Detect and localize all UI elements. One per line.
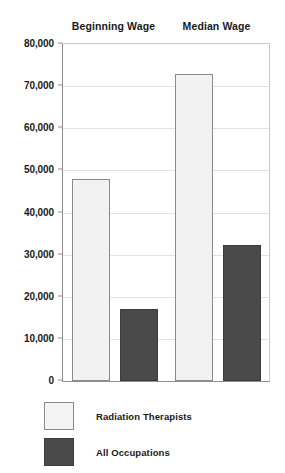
legend-item-radiation-therapists: Radiation Therapists bbox=[44, 401, 274, 431]
legend-item-all-occupations: All Occupations bbox=[44, 437, 274, 467]
legend-swatch-icon-radiation-therapists bbox=[44, 402, 74, 430]
y-axis-tick-label: 60,000 bbox=[24, 122, 54, 133]
y-axis-tick-label: 20,000 bbox=[24, 290, 54, 301]
plot-area bbox=[62, 43, 270, 382]
y-axis: 80,00070,00060,00050,00040,00030,00020,0… bbox=[0, 43, 62, 381]
chart-legend: Radiation Therapists All Occupations bbox=[44, 401, 274, 473]
bar-beginning-wage-all-occupations bbox=[120, 309, 158, 381]
chart-page: { "chart_data": { "type": "bar", "title"… bbox=[0, 0, 285, 473]
group-header-median-wage: Median Wage bbox=[165, 15, 268, 37]
y-axis-tick-label: 40,000 bbox=[24, 206, 54, 217]
y-axis-tick-label: 0 bbox=[49, 375, 54, 386]
bar-median-wage-radiation-therapists bbox=[175, 74, 213, 381]
y-axis-tick-label: 70,000 bbox=[24, 80, 54, 91]
group-header-beginning-wage: Beginning Wage bbox=[62, 15, 165, 37]
bar-group-container bbox=[63, 44, 269, 381]
legend-swatch-icon-all-occupations bbox=[44, 438, 74, 466]
y-axis-tick-label: 30,000 bbox=[24, 248, 54, 259]
y-axis-tick-label: 50,000 bbox=[24, 164, 54, 175]
bar-beginning-wage-radiation-therapists bbox=[72, 179, 110, 381]
y-axis-tick-label: 80,000 bbox=[24, 38, 54, 49]
legend-label-all-occupations: All Occupations bbox=[96, 447, 170, 458]
y-axis-tick-label: 10,000 bbox=[24, 332, 54, 343]
bar-median-wage-all-occupations bbox=[223, 245, 261, 381]
legend-label-radiation-therapists: Radiation Therapists bbox=[96, 411, 192, 422]
group-header-row: Beginning Wage Median Wage bbox=[62, 15, 268, 37]
